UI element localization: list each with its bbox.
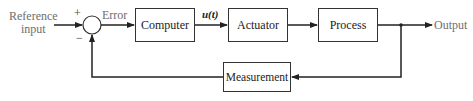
summing-junction (83, 16, 101, 34)
measurement-block: Measurement (223, 62, 291, 92)
output-label: Output (434, 19, 467, 32)
process-label: Process (330, 18, 367, 33)
actuator-label: Actuator (237, 18, 279, 33)
minus-sign: − (76, 31, 83, 46)
actuator-block: Actuator (228, 8, 288, 42)
control-signal-label: u(t) (202, 8, 219, 20)
computer-block: Computer (135, 8, 195, 42)
reference-input-line-2: input (9, 23, 58, 36)
measurement-label: Measurement (226, 71, 289, 83)
reference-input-label: Reference input (9, 10, 58, 36)
process-block: Process (318, 8, 378, 42)
plus-sign: + (74, 6, 81, 21)
error-label: Error (102, 9, 127, 22)
computer-label: Computer (141, 18, 189, 33)
